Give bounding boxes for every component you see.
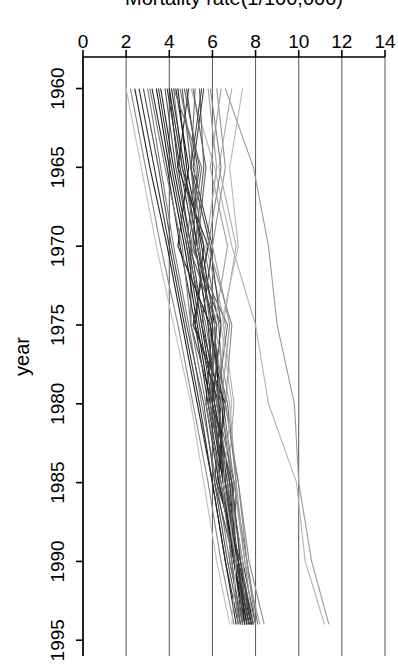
y-tick-label: 4	[164, 31, 175, 52]
y-tick-label: 8	[250, 31, 261, 52]
rotated-plot-wrapper: 19601965197019751980198519901995 0246810…	[0, 0, 398, 670]
x-tick-label: 1975	[47, 304, 68, 346]
y-axis-title: Mortality rate(1/100,000)	[125, 0, 343, 9]
x-tick-label: 1995	[47, 619, 68, 661]
series-line-region-25	[167, 89, 249, 625]
x-tick-label: 1980	[47, 383, 68, 425]
x-tick-label: 1990	[47, 540, 68, 582]
y-tick-label: 10	[288, 31, 309, 52]
chart-figure: 19601965197019751980198519901995 0246810…	[0, 0, 398, 670]
series-line-region-01	[225, 89, 329, 625]
gridlines	[83, 57, 385, 656]
x-axis-ticks	[76, 89, 83, 641]
y-tick-label: 14	[374, 31, 396, 52]
y-axis-tick-labels: 02468101214	[78, 31, 396, 52]
x-tick-label: 1970	[47, 225, 68, 267]
x-axis-title: year	[11, 337, 33, 376]
y-tick-label: 0	[78, 31, 89, 52]
mortality-rate-line-chart: 19601965197019751980198519901995 0246810…	[0, 0, 398, 670]
x-tick-label: 1965	[47, 146, 68, 188]
x-tick-label: 1985	[47, 461, 68, 503]
x-axis-tick-labels: 19601965197019751980198519901995	[47, 67, 68, 661]
x-tick-label: 1960	[47, 67, 68, 109]
y-tick-label: 6	[207, 31, 218, 52]
axis-lines	[83, 57, 385, 656]
y-tick-label: 12	[331, 31, 352, 52]
y-tick-label: 2	[121, 31, 132, 52]
